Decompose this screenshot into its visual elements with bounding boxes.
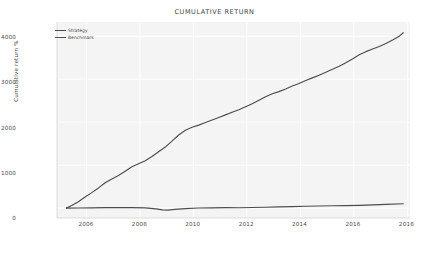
legend-item-benchmark[interactable]: Benchmark (55, 35, 94, 40)
series-line-strategy (66, 33, 403, 208)
legend-line-icon-benchmark (55, 37, 66, 38)
legend-label-strategy: Strategy (68, 28, 88, 33)
gridlines (57, 22, 410, 218)
series-paths (66, 33, 403, 210)
series-line-benchmark (66, 204, 403, 210)
legend-item-strategy[interactable]: Strategy (55, 28, 94, 33)
legend-label-benchmark: Benchmark (68, 35, 94, 40)
chart-figure: CUMULATIVE RETURN Cumulative return % 0 … (0, 0, 429, 256)
chart-legend: Strategy Benchmark (53, 27, 96, 41)
legend-line-icon-strategy (55, 30, 66, 31)
axis-spines (57, 22, 410, 218)
